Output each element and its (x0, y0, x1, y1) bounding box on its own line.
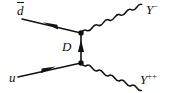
y-minus-superscript: − (153, 1, 158, 11)
y-plusplus-superscript: ++ (147, 71, 156, 81)
label-incoming-antidown: d (17, 4, 24, 17)
feynman-diagram-canvas: d u D Y− Y++ (0, 0, 181, 93)
propagator-arrowhead-icon (78, 40, 84, 52)
outgoing-y-minus-wavy-line (81, 4, 142, 33)
vertex-top (78, 30, 83, 35)
label-incoming-up: u (9, 71, 16, 84)
antidown-symbol: d (17, 4, 24, 17)
antidown-arrowhead-icon (43, 22, 58, 29)
incoming-up-line (18, 63, 81, 77)
outgoing-y-plusplus-wavy-line (81, 63, 141, 91)
vertex-bottom (78, 60, 83, 65)
label-outgoing-y-plusplus: Y++ (140, 72, 157, 86)
label-outgoing-y-minus: Y− (146, 2, 158, 16)
label-propagator-d: D (62, 40, 71, 53)
